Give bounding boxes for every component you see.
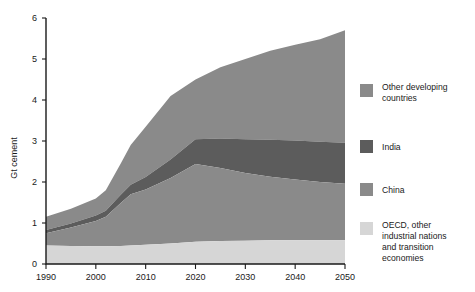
x-tick-label: 2000	[86, 272, 106, 282]
x-tick-label: 2020	[185, 272, 205, 282]
legend-label: countries	[382, 93, 417, 103]
x-tick-label: 2010	[136, 272, 156, 282]
y-tick-labels: 0123456	[32, 13, 37, 269]
legend-label: India	[382, 142, 401, 152]
legend-label: China	[382, 185, 405, 195]
legend-label: industrial nations	[382, 231, 447, 241]
legend-label: OECD, other	[382, 220, 431, 230]
legend-label: and transition	[382, 242, 434, 252]
y-tick-label: 1	[32, 218, 37, 228]
stacked-areas	[46, 30, 345, 264]
chart-legend: Other developingcountriesIndiaChinaOECD,…	[360, 82, 448, 263]
y-tick-label: 4	[32, 95, 37, 105]
y-tick-label: 5	[32, 54, 37, 64]
legend-swatch	[360, 140, 373, 153]
legend-swatch	[360, 183, 373, 196]
y-tick-label: 3	[32, 136, 37, 146]
legend-swatch	[360, 84, 373, 97]
x-tick-label: 2040	[285, 272, 305, 282]
y-tick-label: 6	[32, 13, 37, 23]
chart-canvas: 0123456 1990200020102020203020402050 Gt …	[0, 0, 475, 292]
cement-production-area-chart: 0123456 1990200020102020203020402050 Gt …	[0, 0, 475, 292]
x-tick-label: 2030	[235, 272, 255, 282]
legend-label: economies	[382, 253, 424, 263]
x-tick-label: 2050	[335, 272, 355, 282]
x-tick-labels: 1990200020102020203020402050	[36, 272, 355, 282]
x-tick-label: 1990	[36, 272, 56, 282]
y-tick-label: 2	[32, 177, 37, 187]
legend-label: Other developing	[382, 82, 448, 92]
y-axis-title: Gt cement	[9, 137, 19, 179]
y-tick-label: 0	[32, 259, 37, 269]
legend-swatch	[360, 222, 373, 235]
x-tick-marks	[46, 264, 345, 269]
